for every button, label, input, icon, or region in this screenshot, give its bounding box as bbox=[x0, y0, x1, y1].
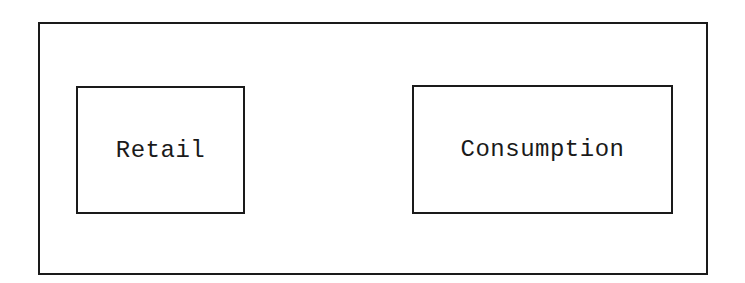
consumption-label: Consumption bbox=[461, 136, 625, 163]
retail-label: Retail bbox=[116, 137, 205, 164]
consumption-node: Consumption bbox=[412, 85, 673, 214]
retail-node: Retail bbox=[76, 86, 245, 214]
